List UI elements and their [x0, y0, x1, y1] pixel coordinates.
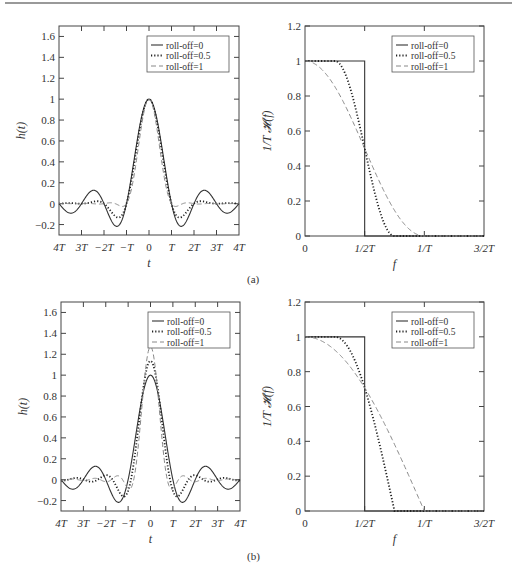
x-tick-label: 0: [146, 241, 152, 253]
x-tick-label: 4T: [233, 241, 246, 253]
y-tick-label: 0.4: [41, 156, 55, 168]
y-axis-label: 1/T 𝓗(f): [260, 110, 274, 151]
x-axis-label: f: [393, 257, 398, 271]
y-tick-label: 0: [52, 474, 58, 486]
x-tick-label: 4T: [55, 517, 68, 529]
series-line-dashed: [61, 347, 240, 489]
y-tick-label: 0.8: [287, 366, 301, 378]
panel-label-a: (a): [247, 273, 260, 286]
y-tick-label: 0.6: [43, 411, 57, 423]
x-axis-label: t: [149, 532, 153, 546]
y-tick-label: 0.4: [287, 435, 301, 447]
x-tick-label: 4T: [53, 241, 66, 253]
figure-canvas: 4T3T−2T−T0T2T3T4T−0.200.20.40.60.811.21.…: [0, 0, 517, 576]
y-axis-label: h(t): [14, 122, 28, 139]
series-line-dotted: [61, 361, 240, 497]
y-tick-label: 1.2: [43, 348, 57, 360]
legend: roll-off=0roll-off=0.5roll-off=1: [392, 312, 474, 348]
x-tick-label: −T: [120, 241, 134, 253]
legend-entry: roll-off=0: [411, 41, 449, 51]
legend: roll-off=0roll-off=0.5roll-off=1: [392, 36, 474, 72]
series-line-dashed: [59, 99, 239, 206]
series-line-dotted: [59, 99, 239, 217]
legend-entry: roll-off=1: [411, 62, 449, 72]
y-tick-label: −0.2: [35, 219, 55, 231]
y-tick-label: 1: [296, 55, 302, 67]
legend: roll-off=0roll-off=0.5roll-off=1: [148, 312, 230, 348]
series-line-solid: [305, 337, 484, 511]
x-tick-label: 3/2T: [473, 242, 495, 254]
legend-entry: roll-off=1: [167, 338, 205, 348]
x-tick-label: 3T: [77, 517, 91, 529]
series-line-dotted: [305, 337, 484, 511]
y-tick-label: −0.2: [37, 495, 57, 507]
x-tick-label: 2T: [189, 517, 202, 529]
y-tick-label: 0.6: [287, 125, 301, 137]
legend-entry: roll-off=0.5: [166, 51, 211, 61]
y-tick-label: 1.4: [41, 51, 55, 63]
x-tick-label: 1/2T: [355, 517, 376, 529]
y-tick-label: 1.6: [41, 30, 55, 42]
y-tick-label: 0.2: [41, 177, 55, 189]
x-tick-label: 4T: [234, 517, 247, 529]
y-tick-label: 1.2: [41, 72, 55, 84]
legend-entry: roll-off=0: [166, 41, 204, 51]
x-tick-label: T: [168, 241, 175, 253]
x-tick-label: 3T: [210, 241, 224, 253]
y-tick-label: 0.2: [43, 453, 57, 465]
y-tick-label: 1: [296, 331, 302, 343]
y-tick-label: 0.2: [287, 195, 301, 207]
x-tick-label: 1/T: [417, 242, 433, 254]
y-tick-label: 1.4: [43, 327, 57, 339]
y-tick-label: 0.2: [287, 470, 301, 482]
x-tick-label: T: [170, 517, 177, 529]
legend: roll-off=0roll-off=0.5roll-off=1: [147, 36, 229, 72]
legend-entry: roll-off=0.5: [411, 327, 456, 337]
legend-entry: roll-off=0: [411, 317, 449, 327]
x-tick-label: −2T: [94, 241, 114, 253]
legend-entry: roll-off=1: [166, 62, 204, 72]
chart-a-time: 4T3T−2T−T0T2T3T4T−0.200.20.40.60.811.21.…: [14, 26, 246, 270]
legend-entry: roll-off=1: [411, 338, 449, 348]
y-axis-label: h(t): [16, 398, 30, 415]
chart-a-freq: 01/2T1/T3/2T00.20.40.60.811.2f1/T 𝓗(f)ro…: [260, 20, 495, 271]
y-tick-label: 0.6: [287, 401, 301, 413]
x-tick-label: 2T: [188, 241, 201, 253]
x-tick-label: 0: [302, 517, 308, 529]
y-tick-label: 0.8: [43, 390, 57, 402]
chart-b-time: 4T3T−2T−T0T2T3T4T−0.200.20.40.60.811.21.…: [16, 302, 247, 546]
chart-b-freq: 01/2T1/T3/2T00.20.40.60.811.2f1/T 𝓗(f)ro…: [260, 296, 495, 546]
series-line-dashed: [305, 337, 484, 511]
x-tick-label: 0: [302, 242, 308, 254]
x-tick-label: −2T: [96, 517, 116, 529]
y-axis-label: 1/T 𝓗(f): [260, 386, 274, 427]
x-axis-label: f: [393, 532, 398, 546]
y-tick-label: 0.4: [287, 160, 301, 172]
x-tick-label: 3T: [75, 241, 89, 253]
y-tick-label: 0: [296, 505, 302, 517]
y-tick-label: 1.6: [43, 306, 57, 318]
x-tick-label: 3T: [211, 517, 225, 529]
y-tick-label: 1.2: [287, 20, 301, 32]
y-tick-label: 1.2: [287, 296, 301, 308]
x-tick-label: 0: [148, 517, 154, 529]
x-tick-label: −T: [121, 517, 135, 529]
series-line-solid: [61, 375, 240, 502]
panel-label-b: (b): [247, 550, 260, 563]
x-tick-label: 3/2T: [473, 517, 495, 529]
x-tick-label: 1/2T: [355, 242, 376, 254]
y-tick-label: 0.6: [41, 135, 55, 147]
x-tick-label: 1/T: [417, 517, 433, 529]
y-tick-label: 0: [296, 230, 302, 242]
y-tick-label: 1: [52, 369, 58, 381]
legend-entry: roll-off=0.5: [411, 51, 456, 61]
series-line-dashed: [305, 61, 484, 236]
series-line-solid: [59, 99, 239, 226]
legend-entry: roll-off=0: [167, 317, 205, 327]
y-tick-label: 0.8: [41, 114, 55, 126]
legend-entry: roll-off=0.5: [167, 327, 212, 337]
y-tick-label: 0: [50, 198, 56, 210]
x-axis-label: t: [147, 256, 151, 270]
y-tick-label: 0.4: [43, 432, 57, 444]
y-tick-label: 0.8: [287, 90, 301, 102]
